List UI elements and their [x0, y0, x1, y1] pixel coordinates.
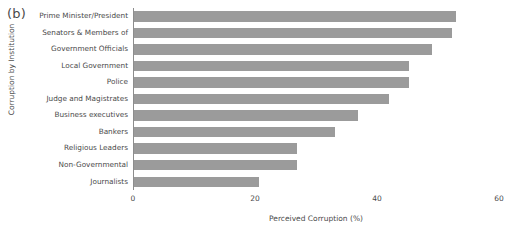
- x-tick-label: 0: [131, 194, 136, 203]
- bar: [134, 110, 358, 121]
- bar: [134, 177, 259, 188]
- bar: [134, 143, 297, 154]
- category-label: Police: [2, 74, 128, 91]
- bar: [134, 11, 456, 22]
- x-axis-title: Perceived Corruption (%): [133, 214, 499, 223]
- bar: [134, 77, 409, 88]
- category-label: Judge and Magistrates: [2, 91, 128, 108]
- x-axis: 0204060: [133, 190, 499, 191]
- bar: [134, 61, 409, 72]
- bar-row: Police: [133, 74, 499, 91]
- category-label: Local Government: [2, 58, 128, 75]
- bar-row: Religious Leaders: [133, 140, 499, 157]
- plot-area: Prime Minister/PresidentSenators & Membe…: [133, 8, 499, 190]
- x-tick-label: 20: [250, 194, 260, 203]
- bar: [134, 44, 432, 55]
- bar-row: Business executives: [133, 107, 499, 124]
- bar-row: Government Officials: [133, 41, 499, 58]
- bar-row: Journalists: [133, 174, 499, 191]
- category-label: Religious Leaders: [2, 140, 128, 157]
- bar-row: Judge and Magistrates: [133, 91, 499, 108]
- category-label: Business executives: [2, 107, 128, 124]
- bar: [134, 94, 389, 105]
- category-label: Bankers: [2, 124, 128, 141]
- bar: [134, 160, 297, 171]
- bar-chart-figure: (b) Corruption by Institution Prime Mini…: [0, 0, 512, 238]
- x-tick-label: 60: [494, 194, 504, 203]
- bar: [134, 127, 335, 138]
- bar-row: Non-Governmental: [133, 157, 499, 174]
- bar-row: Bankers: [133, 124, 499, 141]
- x-tick-label: 40: [372, 194, 382, 203]
- bar-row: Prime Minister/President: [133, 8, 499, 25]
- category-label: Government Officials: [2, 41, 128, 58]
- category-label: Journalists: [2, 174, 128, 191]
- category-label: Non-Governmental: [2, 157, 128, 174]
- bar-row: Local Government: [133, 58, 499, 75]
- category-label: Prime Minister/President: [2, 8, 128, 25]
- bar: [134, 28, 452, 39]
- category-label: Senators & Members of: [2, 25, 128, 42]
- bar-row: Senators & Members of: [133, 25, 499, 42]
